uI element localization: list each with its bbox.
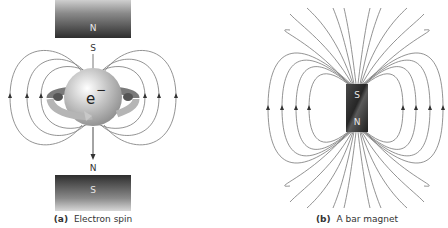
caption-b-text: A bar magnet [336, 214, 398, 224]
top-pole-label: S [90, 43, 96, 53]
arrow-up-icon [143, 93, 147, 98]
bottom-magnet-label: S [90, 185, 96, 195]
arrow-up-icon [414, 105, 418, 110]
caption-a-text: Electron spin [74, 214, 132, 224]
panel-b-bar-magnet: S N (b) A bar magnet [266, 8, 445, 224]
arrow-up-icon [8, 93, 12, 98]
arrow-up-icon [428, 105, 432, 110]
electron-label: e [86, 90, 95, 108]
caption-b-tag: (b) [316, 214, 331, 224]
caption-a-tag: (a) [54, 214, 68, 224]
arrow-up-icon [441, 105, 445, 110]
arrow-down-icon [91, 154, 96, 160]
panel-a-electron-spin: N S [8, 0, 178, 224]
arrow-up-icon [39, 93, 43, 98]
arrow-up-icon [307, 105, 311, 110]
arrow-up-icon [280, 105, 284, 110]
diagram: N S [0, 0, 448, 228]
bottom-magnet: S [55, 175, 131, 211]
bar-magnet-top-label: S [354, 90, 360, 100]
arrow-up-icon [157, 93, 161, 98]
arrow-up-icon [401, 105, 405, 110]
caption-a: (a) Electron spin [54, 214, 133, 224]
arrow-up-icon [294, 105, 298, 110]
top-magnet-label: N [90, 23, 97, 33]
bar-magnet-bottom-label: N [354, 117, 361, 127]
bottom-pole-label: N [90, 163, 97, 173]
arrow-up-icon [25, 93, 29, 98]
caption-b: (b) A bar magnet [316, 214, 399, 224]
arrow-up-icon [266, 105, 270, 110]
arrow-up-icon [174, 93, 178, 98]
bar-magnet: S N [346, 84, 368, 132]
top-magnet: N [55, 0, 131, 38]
electron-charge: − [96, 83, 106, 97]
